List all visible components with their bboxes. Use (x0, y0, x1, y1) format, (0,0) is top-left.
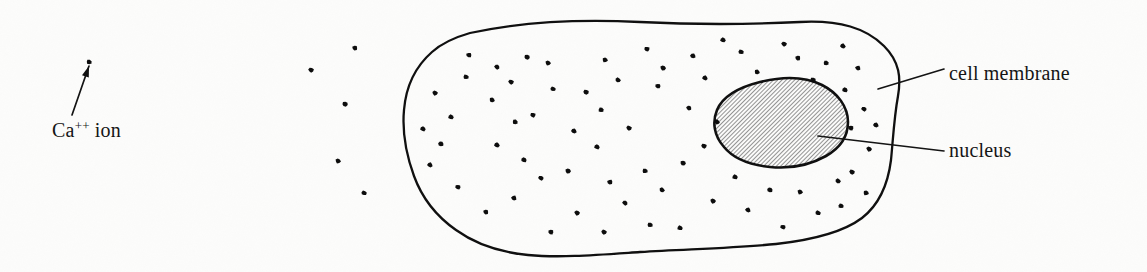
nucleus-label: nucleus (949, 139, 1012, 161)
ca-ion-label-superscript: ++ (75, 118, 90, 133)
ca-ion-label-base: Ca (52, 119, 75, 141)
ca-ion-label-suffix: ion (95, 119, 121, 141)
paper-grain-texture (0, 0, 1147, 272)
diagram-canvas: Ca++ion cell membrane nucleus (0, 0, 1147, 272)
cell-diagram-figure: Ca++ion cell membrane nucleus (0, 0, 1147, 272)
cell-membrane-label: cell membrane (949, 62, 1070, 84)
